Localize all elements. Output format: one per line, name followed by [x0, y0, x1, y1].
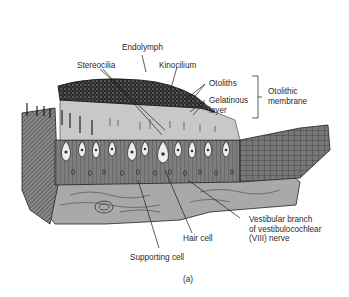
label-hair-cell: Hair cell [183, 234, 213, 244]
label-stereocilia: Stereocilia [77, 61, 115, 71]
label-otolithic-membrane: Otolithic membrane [268, 87, 307, 106]
label-endolymph: Endolymph [122, 43, 163, 53]
label-kinocilium: Kinocilium [159, 61, 196, 71]
label-otoliths: Otoliths [209, 79, 237, 89]
panel-label: (a) [183, 275, 193, 285]
label-supporting-cell: Supporting cell [130, 253, 184, 263]
label-gelatinous-layer: Gelatinous layer [209, 96, 248, 115]
label-vestibular-nerve: Vestibular branch of vestibulocochlear (… [249, 215, 321, 244]
side-face [22, 108, 58, 224]
